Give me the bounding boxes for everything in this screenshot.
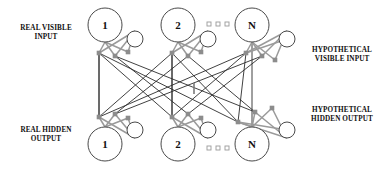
visible-node-label: N (248, 19, 256, 31)
hidden-node-label: 2 (175, 138, 181, 150)
ellipsis-dot (225, 22, 229, 26)
visible-node-label: 1 (102, 19, 108, 31)
ellipsis-dot (207, 22, 211, 26)
real-edge-group (99, 42, 262, 127)
label-real-visible-input-line2: INPUT (6, 33, 86, 42)
connector-square (260, 54, 265, 59)
label-real-visible-input-line1: REAL VISIBLE (6, 24, 86, 33)
connector-square (126, 116, 131, 121)
label-hypothetical-visible-input-line1: HYPOTHETICAL (298, 46, 386, 55)
label-hypothetical-visible-input: HYPOTHETICAL VISIBLE INPUT (298, 46, 386, 64)
connector-square (199, 116, 204, 121)
connector-square (244, 51, 249, 56)
label-hypothetical-hidden-output: HYPOTHETICAL HIDDEN OUTPUT (298, 106, 386, 124)
connector-square (186, 112, 191, 117)
hidden-node-label: 1 (102, 138, 108, 150)
connector-square (97, 51, 102, 56)
label-hypothetical-hidden-output-line2: HIDDEN OUTPUT (298, 115, 386, 124)
connector-square (273, 58, 278, 63)
connector-square (270, 106, 275, 111)
connector-square (170, 51, 175, 56)
connector-square (199, 50, 204, 55)
label-real-hidden-output-line2: OUTPUT (6, 135, 86, 144)
hypothetical-edge-group (99, 31, 287, 138)
label-real-hidden-output-line1: REAL HIDDEN (6, 126, 86, 135)
real-edge (238, 53, 246, 122)
ellipsis-dot (225, 146, 229, 150)
connector-square (113, 112, 118, 117)
connector-square (113, 54, 118, 59)
connector-square (126, 50, 131, 55)
node-group: 12N12N (88, 8, 295, 161)
label-real-hidden-output: REAL HIDDEN OUTPUT (6, 126, 86, 144)
connector-square (97, 115, 102, 120)
hypothetical-hidden-node[interactable] (127, 122, 143, 138)
label-hypothetical-hidden-output-line1: HYPOTHETICAL (298, 106, 386, 115)
connector-square (170, 115, 175, 120)
visible-node-label: 2 (175, 19, 181, 31)
label-real-visible-input: REAL VISIBLE INPUT (6, 24, 86, 42)
hypothetical-hidden-node[interactable] (200, 122, 216, 138)
hypothetical-hidden-node[interactable] (279, 122, 295, 138)
connector-square (253, 110, 258, 115)
hypothetical-visible-node[interactable] (279, 31, 295, 47)
hidden-node-label: N (248, 138, 256, 150)
ellipsis-dot (216, 22, 220, 26)
diagram-canvas: 12N12N REAL VISIBLE INPUT REAL HIDDEN OU… (0, 0, 390, 169)
ellipsis-dot (207, 146, 211, 150)
connector-square (236, 120, 241, 125)
ellipsis-dot (216, 146, 220, 150)
label-hypothetical-visible-input-line2: VISIBLE INPUT (298, 55, 386, 64)
connector-square (186, 54, 191, 59)
hypothetical-visible-node[interactable] (200, 31, 216, 47)
hypothetical-visible-node[interactable] (127, 31, 143, 47)
